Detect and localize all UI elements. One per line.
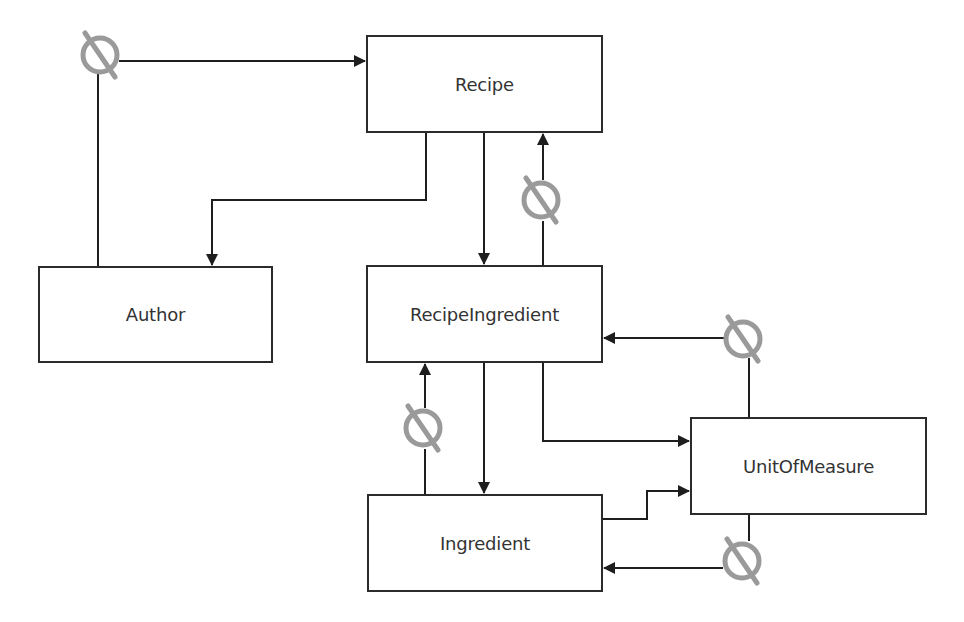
connector-ingredient-uom [603, 491, 689, 519]
null-marker-icon [725, 539, 759, 583]
null-marker-icon [726, 317, 760, 361]
entity-label: Ingredient [440, 533, 530, 554]
null-marker-icon [83, 33, 117, 77]
entity-recipe-ingredient: RecipeIngredient [366, 265, 603, 363]
entity-label: UnitOfMeasure [743, 456, 874, 477]
connector-recipe-author [212, 133, 426, 265]
entity-author: Author [38, 266, 273, 363]
er-diagram: Recipe Author RecipeIngredient UnitOfMea… [0, 0, 964, 622]
entity-label: RecipeIngredient [410, 304, 559, 325]
entity-recipe: Recipe [366, 35, 603, 133]
entity-ingredient: Ingredient [367, 494, 603, 592]
entity-label: Recipe [455, 74, 514, 95]
entity-label: Author [126, 304, 185, 325]
null-marker-icon [406, 406, 440, 450]
connector-recipeingredient-uom [543, 363, 689, 441]
null-marker-icon [524, 178, 558, 222]
entity-unit-of-measure: UnitOfMeasure [690, 417, 927, 515]
